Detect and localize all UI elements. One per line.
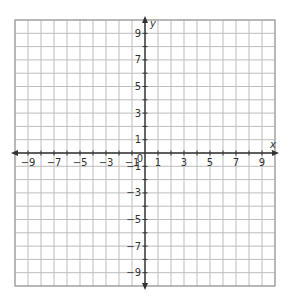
y-axis-label: y bbox=[149, 18, 157, 29]
origin-label: 0 bbox=[137, 153, 143, 164]
x-tick-label: 9 bbox=[259, 157, 265, 168]
y-tick-label: 5 bbox=[135, 81, 141, 92]
x-tick-label: 7 bbox=[233, 157, 239, 168]
y-tick-label: 7 bbox=[135, 54, 141, 65]
y-tick-label: 9 bbox=[135, 28, 141, 39]
y-tick-label: −9 bbox=[126, 267, 141, 278]
y-tick-label: 1 bbox=[135, 134, 141, 145]
y-tick-label: 3 bbox=[135, 108, 141, 119]
y-tick-label: −5 bbox=[126, 214, 141, 225]
x-tick-label: −3 bbox=[99, 157, 114, 168]
x-tick-label: 1 bbox=[155, 157, 161, 168]
x-tick-label: 3 bbox=[181, 157, 187, 168]
y-tick-label: −7 bbox=[126, 241, 141, 252]
x-tick-label: −5 bbox=[73, 157, 88, 168]
x-tick-label: −9 bbox=[21, 157, 36, 168]
y-tick-label: −3 bbox=[126, 187, 141, 198]
x-tick-label: 5 bbox=[207, 157, 213, 168]
x-tick-label: −7 bbox=[47, 157, 62, 168]
coordinate-plane: −9−7−5−3−11357997531−1−3−5−7−90xy bbox=[0, 0, 291, 304]
x-axis-label: x bbox=[269, 139, 276, 150]
